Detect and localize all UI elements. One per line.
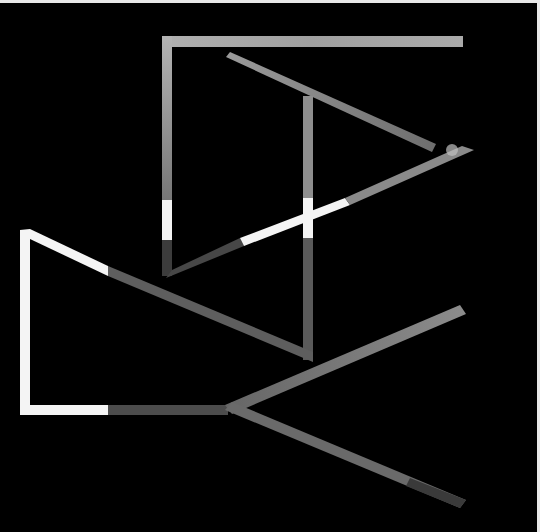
arrow-lower-arm-tip <box>406 478 466 508</box>
lower-diagonal-white <box>240 198 350 246</box>
upper-diagonal-bar <box>226 52 436 152</box>
middle-vertical-dark <box>303 238 313 360</box>
middle-vertical-gray <box>303 96 313 198</box>
bracket-left-vertical-white <box>162 200 172 240</box>
top-horizontal-bar <box>162 36 463 47</box>
left-polygon-bottom-white <box>20 405 108 415</box>
left-polygon-vertical <box>20 230 30 415</box>
line-art-canvas <box>0 0 540 532</box>
left-polygon-diagonal-gray <box>108 266 313 362</box>
vertex-highlight <box>446 144 458 156</box>
left-polygon-diagonal-white <box>20 229 108 276</box>
lower-diagonal-dark <box>166 238 244 278</box>
bracket-left-vertical-gray <box>162 36 172 200</box>
bracket-left-vertical-dark <box>162 240 172 276</box>
left-polygon-bottom-dark <box>108 405 228 415</box>
arrow-upper-arm <box>225 305 466 414</box>
